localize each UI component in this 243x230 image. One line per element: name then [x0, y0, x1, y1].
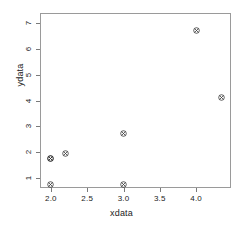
x-tick-label: 3.0 — [118, 194, 130, 203]
y-axis-title-wrapper: ydata — [8, 70, 22, 130]
y-tick-mark — [36, 49, 40, 50]
y-tick-label: 5 — [24, 72, 33, 77]
x-tick-label: 2.0 — [45, 194, 57, 203]
y-tick-mark — [36, 101, 40, 102]
y-tick-label: 4 — [24, 98, 33, 103]
y-tick-mark — [36, 178, 40, 179]
x-axis-title: xdata — [0, 208, 243, 218]
x-tick-mark — [124, 188, 125, 192]
y-tick-mark — [36, 23, 40, 24]
y-tick-label: 1 — [24, 175, 33, 180]
plot-frame — [40, 13, 231, 188]
y-tick-mark — [36, 152, 40, 153]
x-tick-mark — [51, 188, 52, 192]
y-tick-label: 2 — [24, 150, 33, 155]
x-tick-mark — [87, 188, 88, 192]
y-axis-title: ydata — [15, 45, 25, 105]
x-tick-label: 2.5 — [81, 194, 93, 203]
y-tick-label: 3 — [24, 124, 33, 129]
y-tick-mark — [36, 75, 40, 76]
y-tick-mark — [36, 126, 40, 127]
x-tick-mark — [196, 188, 197, 192]
x-tick-label: 4.0 — [190, 194, 202, 203]
y-tick-label: 6 — [24, 47, 33, 52]
scatter-plot-figure: 2.02.53.03.54.0 1234567 xdata ydata — [0, 0, 243, 230]
x-tick-label: 3.5 — [154, 194, 166, 203]
x-tick-mark — [160, 188, 161, 192]
y-tick-label: 7 — [24, 21, 33, 26]
